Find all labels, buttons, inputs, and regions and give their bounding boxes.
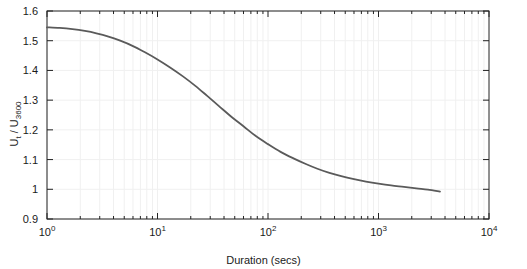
x-tick-label: 100 bbox=[39, 226, 56, 238]
x-tick-exponent: 1 bbox=[161, 224, 165, 233]
y-tick-label: 1 bbox=[0, 183, 38, 195]
x-tick-exponent: 2 bbox=[272, 224, 276, 233]
x-tick-exponent: 0 bbox=[51, 224, 55, 233]
x-tick-label: 102 bbox=[260, 226, 277, 238]
x-tick-exponent: 4 bbox=[493, 224, 497, 233]
y-tick-label: 1.6 bbox=[0, 5, 38, 17]
x-tick-label: 101 bbox=[149, 226, 166, 238]
y-axis-label: Ut / U3600 bbox=[4, 64, 22, 184]
x-tick-mantissa: 10 bbox=[39, 226, 51, 238]
y-tick-label: 0.9 bbox=[0, 213, 38, 225]
y-axis-label-text: Ut / U3600 bbox=[8, 101, 20, 146]
x-tick-mantissa: 10 bbox=[370, 226, 382, 238]
x-tick-mantissa: 10 bbox=[260, 226, 272, 238]
x-tick-label: 103 bbox=[370, 226, 387, 238]
x-axis-label: Duration (secs) bbox=[0, 250, 527, 268]
x-tick-mantissa: 10 bbox=[481, 226, 493, 238]
x-tick-mantissa: 10 bbox=[149, 226, 161, 238]
x-axis-label-text: Duration (secs) bbox=[226, 254, 301, 266]
x-tick-label: 104 bbox=[481, 226, 498, 238]
y-tick-label: 1.5 bbox=[0, 35, 38, 47]
chart-figure: 0.911.11.21.31.41.51.6100101102103104 Ut… bbox=[0, 0, 527, 269]
x-tick-exponent: 3 bbox=[382, 224, 386, 233]
